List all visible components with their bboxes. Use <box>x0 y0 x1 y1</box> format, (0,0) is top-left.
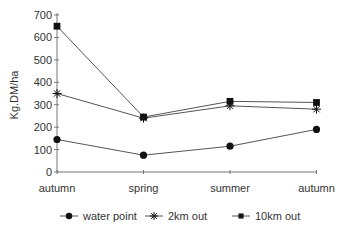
circle-marker <box>313 126 320 133</box>
y-axis-title: Kg.DM/ha <box>8 70 20 120</box>
x-tick-label: summer <box>210 182 250 194</box>
legend-item: water point <box>60 210 137 222</box>
series-line <box>57 129 317 155</box>
asterisk-marker <box>312 105 321 114</box>
x-tick-label: autumn <box>39 182 76 194</box>
legend-label: 2km out <box>168 210 207 222</box>
square-marker <box>238 213 243 218</box>
x-axis: autumnspringsummerautumn <box>39 170 335 194</box>
series-2km-out <box>53 89 322 123</box>
y-tick-label: 700 <box>34 9 52 21</box>
y-tick-label: 100 <box>34 144 52 156</box>
legend-label: 10km out <box>255 210 300 222</box>
y-tick-label: 0 <box>46 166 52 178</box>
series-10km-out <box>54 23 320 121</box>
y-tick-label: 500 <box>34 54 52 66</box>
y-tick-label: 600 <box>34 31 52 43</box>
square-marker <box>313 99 320 106</box>
legend-item: 10km out <box>232 210 300 222</box>
y-tick-label: 300 <box>34 99 52 111</box>
series-line <box>57 94 317 119</box>
line-chart: 0100200300400500600700 autumnspringsumme… <box>0 0 347 236</box>
legend-label: water point <box>82 210 137 222</box>
square-marker <box>140 114 147 121</box>
square-marker <box>227 98 234 105</box>
circle-marker <box>226 143 233 150</box>
circle-marker <box>53 136 60 143</box>
circle-marker <box>66 213 72 219</box>
circle-marker <box>140 152 147 159</box>
y-tick-label: 200 <box>34 121 52 133</box>
legend: water point2km out10km out <box>60 210 300 222</box>
x-tick-label: autumn <box>298 182 335 194</box>
x-tick-label: spring <box>129 182 159 194</box>
series-water-point <box>53 126 320 159</box>
series-line <box>57 26 317 117</box>
y-tick-label: 400 <box>34 76 52 88</box>
square-marker <box>54 23 61 30</box>
asterisk-marker <box>53 89 62 98</box>
legend-item: 2km out <box>145 210 207 222</box>
series-lines <box>53 23 322 159</box>
asterisk-marker <box>150 212 158 220</box>
